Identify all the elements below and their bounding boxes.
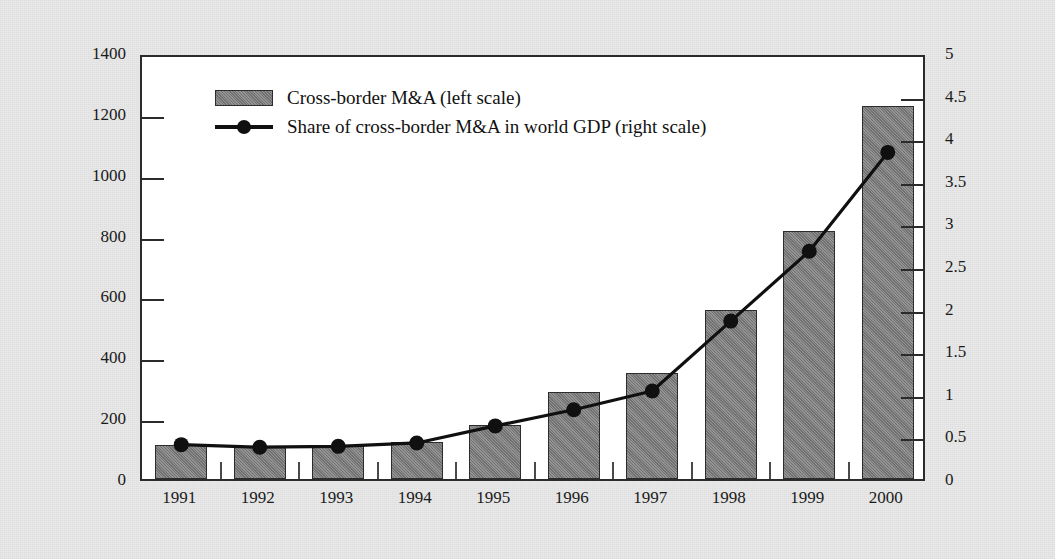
right-tick-2 bbox=[901, 312, 923, 314]
left-tick-1200 bbox=[142, 117, 164, 119]
left-tick-label-1000: 1000 bbox=[60, 166, 126, 186]
left-tick-label-1400: 1400 bbox=[60, 44, 126, 64]
x-tick-3 bbox=[377, 462, 379, 479]
x-tick-4 bbox=[455, 462, 457, 479]
legend-item-line: Share of cross-border M&A in world GDP (… bbox=[215, 112, 706, 141]
right-tick-3 bbox=[901, 226, 923, 228]
x-tick-7 bbox=[691, 462, 693, 479]
line-path bbox=[181, 152, 888, 447]
legend-item-bar: Cross-border M&A (left scale) bbox=[215, 83, 706, 112]
legend-swatch-line bbox=[215, 112, 273, 141]
left-tick-label-400: 400 bbox=[60, 348, 126, 368]
bar-1995 bbox=[469, 425, 521, 479]
bar-1997 bbox=[626, 373, 678, 479]
x-tick-label-1994: 1994 bbox=[376, 488, 455, 508]
bar-1993 bbox=[312, 446, 364, 479]
right-tick-label-3.5: 3.5 bbox=[945, 172, 966, 192]
x-tick-label-2000: 2000 bbox=[847, 488, 926, 508]
chart-figure: Billions of U.S. dollars Percent 0200400… bbox=[0, 0, 1055, 559]
right-tick-label-4: 4 bbox=[945, 129, 954, 149]
bar-1992 bbox=[234, 446, 286, 479]
bar-swatch-icon bbox=[215, 90, 273, 106]
right-tick-label-2.5: 2.5 bbox=[945, 257, 966, 277]
left-tick-400 bbox=[142, 360, 164, 362]
left-tick-label-200: 200 bbox=[60, 409, 126, 429]
x-tick-5 bbox=[534, 462, 536, 479]
bar-1994 bbox=[391, 442, 443, 479]
right-tick-label-1: 1 bbox=[945, 385, 954, 405]
x-tick-8 bbox=[769, 462, 771, 479]
x-tick-9 bbox=[848, 462, 850, 479]
bar-1999 bbox=[783, 231, 835, 479]
x-tick-label-1999: 1999 bbox=[768, 488, 847, 508]
right-tick-label-0.5: 0.5 bbox=[945, 427, 966, 447]
right-tick-1 bbox=[901, 397, 923, 399]
x-tick-label-1998: 1998 bbox=[690, 488, 769, 508]
left-tick-label-600: 600 bbox=[60, 287, 126, 307]
x-tick-label-1992: 1992 bbox=[219, 488, 298, 508]
x-tick-1 bbox=[220, 462, 222, 479]
right-tick-0.5 bbox=[901, 439, 923, 441]
right-tick-label-1.5: 1.5 bbox=[945, 342, 966, 362]
x-tick-6 bbox=[612, 462, 614, 479]
right-tick-label-2: 2 bbox=[945, 300, 954, 320]
right-tick-1.5 bbox=[901, 354, 923, 356]
left-tick-label-800: 800 bbox=[60, 227, 126, 247]
x-tick-label-1997: 1997 bbox=[611, 488, 690, 508]
right-tick-label-4.5: 4.5 bbox=[945, 87, 966, 107]
legend-label-line: Share of cross-border M&A in world GDP (… bbox=[287, 116, 706, 138]
bar-1998 bbox=[705, 310, 757, 479]
legend-swatch-bar bbox=[215, 83, 273, 112]
bar-1991 bbox=[155, 445, 207, 479]
x-tick-2 bbox=[298, 462, 300, 479]
left-tick-label-1200: 1200 bbox=[60, 105, 126, 125]
left-tick-1000 bbox=[142, 178, 164, 180]
x-tick-label-1993: 1993 bbox=[297, 488, 376, 508]
left-tick-200 bbox=[142, 421, 164, 423]
left-tick-800 bbox=[142, 239, 164, 241]
right-tick-label-5: 5 bbox=[945, 44, 954, 64]
right-tick-4.5 bbox=[901, 99, 923, 101]
x-tick-label-1991: 1991 bbox=[140, 488, 219, 508]
right-tick-4 bbox=[901, 141, 923, 143]
bar-2000 bbox=[862, 106, 914, 479]
right-tick-2.5 bbox=[901, 269, 923, 271]
right-tick-3.5 bbox=[901, 184, 923, 186]
left-tick-600 bbox=[142, 299, 164, 301]
x-tick-label-1995: 1995 bbox=[454, 488, 533, 508]
bar-1996 bbox=[548, 392, 600, 479]
left-tick-label-0: 0 bbox=[60, 470, 126, 490]
chart-legend: Cross-border M&A (left scale) Share of c… bbox=[215, 83, 706, 141]
right-tick-label-0: 0 bbox=[945, 470, 954, 490]
circle-marker-icon bbox=[237, 120, 251, 134]
legend-label-bar: Cross-border M&A (left scale) bbox=[287, 87, 521, 109]
right-tick-label-3: 3 bbox=[945, 214, 954, 234]
x-tick-label-1996: 1996 bbox=[533, 488, 612, 508]
